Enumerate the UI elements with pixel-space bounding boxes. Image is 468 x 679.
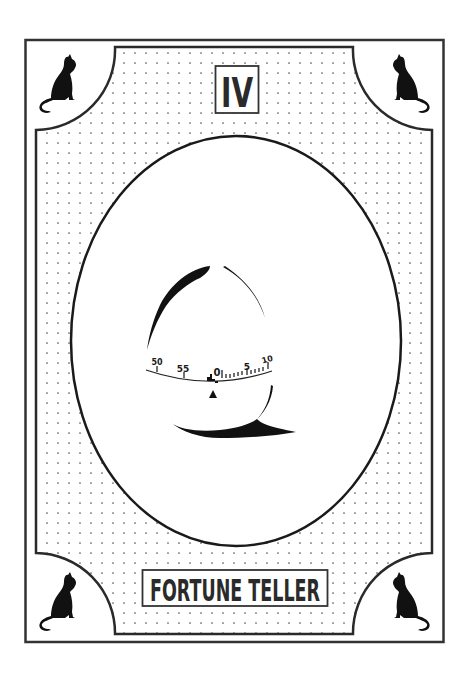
title-plate: FORTUNE TELLER	[143, 570, 328, 608]
central-oval	[71, 136, 401, 546]
title-label: FORTUNE TELLER	[150, 572, 320, 608]
dial-label-55: 55	[177, 364, 190, 374]
dial-label-50: 50	[151, 358, 163, 367]
tarot-card: IV FORTUNE TELLER	[0, 0, 468, 679]
numeral-label: IV	[221, 70, 253, 116]
dial-label-5: 5	[244, 362, 250, 372]
dial-label-0: 0	[214, 367, 221, 378]
numeral-plate: IV	[216, 66, 259, 116]
